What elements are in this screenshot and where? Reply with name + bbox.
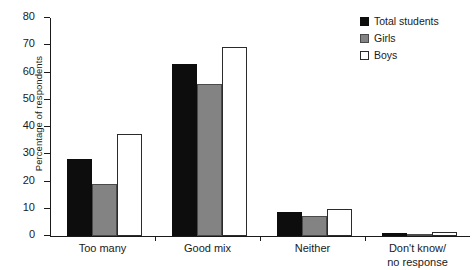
y-axis-tick-label: 10 <box>23 201 35 214</box>
legend-item: Boys <box>360 48 476 63</box>
y-axis-tick: 50 <box>44 99 50 100</box>
y-axis-tick-label: 0 <box>29 228 35 241</box>
x-axis-category-label: Neither <box>260 242 365 256</box>
category-label-line: Too many <box>50 242 155 256</box>
category-label-line: Good mix <box>155 242 260 256</box>
y-axis-tick: 0 <box>44 235 50 236</box>
y-axis-tick: 60 <box>44 72 50 73</box>
legend-swatch-girls-icon <box>360 34 369 43</box>
bar-total-students <box>172 64 197 236</box>
x-axis-tick <box>365 236 366 241</box>
bar-boys <box>432 232 457 236</box>
bar-boys <box>327 209 352 236</box>
y-axis-tick: 10 <box>44 208 50 209</box>
y-axis-tick-label: 20 <box>23 174 35 187</box>
chart-legend: Total studentsGirlsBoys <box>360 14 476 65</box>
legend-item-label: Boys <box>374 49 397 62</box>
x-axis-tick <box>260 236 261 241</box>
legend-swatch-boys-icon <box>360 51 369 60</box>
x-axis-category-label: Don't know/no response <box>365 242 470 269</box>
legend-item-label: Girls <box>374 32 396 45</box>
bar-girls <box>302 216 327 236</box>
bar-total-students <box>382 233 407 236</box>
x-axis-tick <box>155 236 156 241</box>
y-axis-tick-label: 60 <box>23 65 35 78</box>
x-axis-category-label: Too many <box>50 242 155 256</box>
category-label-line: no response <box>365 256 470 270</box>
y-axis-tick-label: 70 <box>23 37 35 50</box>
y-axis-tick-label: 40 <box>23 119 35 132</box>
bar-boys <box>117 134 142 236</box>
y-axis-tick-label: 80 <box>23 10 35 23</box>
category-label-line: Don't know/ <box>365 242 470 256</box>
legend-item-label: Total students <box>374 15 439 28</box>
bar-total-students <box>277 212 302 236</box>
y-axis-tick: 40 <box>44 126 50 127</box>
y-axis-tick: 30 <box>44 153 50 154</box>
bar-girls <box>197 84 222 236</box>
bar-boys <box>222 47 247 236</box>
legend-item: Girls <box>360 31 476 46</box>
y-axis-tick: 80 <box>44 17 50 18</box>
bar-chart: Percentage of respondents 01020304050607… <box>0 0 476 270</box>
bar-group <box>67 18 142 236</box>
legend-swatch-total-students-icon <box>360 17 369 26</box>
y-axis-tick-label: 30 <box>23 146 35 159</box>
bar-total-students <box>67 159 92 236</box>
bar-girls <box>407 234 432 236</box>
legend-item: Total students <box>360 14 476 29</box>
y-axis-tick: 20 <box>44 181 50 182</box>
y-axis-tick: 70 <box>44 44 50 45</box>
category-label-line: Neither <box>260 242 365 256</box>
y-axis-line <box>50 18 51 236</box>
bar-group <box>277 18 352 236</box>
bar-group <box>172 18 247 236</box>
bar-girls <box>92 184 117 236</box>
y-axis-tick-label: 50 <box>23 92 35 105</box>
x-axis-category-label: Good mix <box>155 242 260 256</box>
